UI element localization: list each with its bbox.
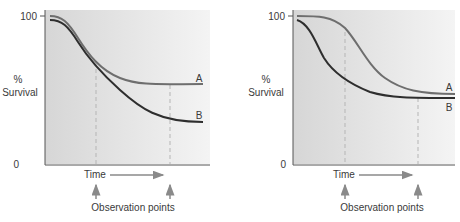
right-panel: 100 0 % Survival A B Time Observation po… [248,10,455,213]
left-y-tick-label-100: 100 [20,11,37,22]
left-plot-area [45,10,210,164]
figure: 100 0 % Survival A B Time Observation po… [0,0,460,222]
left-panel: 100 0 % Survival A B Time Observation po… [2,10,210,213]
right-series-label-b: B [446,102,453,113]
left-y-label-percent: % [14,74,23,85]
right-observation-points-label: Observation points [340,202,423,213]
left-series-label-a: A [196,73,203,84]
right-y-tick-label-0: 0 [280,159,286,170]
left-y-label-survival: Survival [2,87,38,98]
right-y-tick-label-100: 100 [268,11,285,22]
right-time-label: Time [333,169,355,180]
left-series-label-b: B [196,110,203,121]
left-time-label: Time [84,169,106,180]
right-y-label-survival: Survival [248,87,284,98]
right-series-label-a: A [446,82,453,93]
left-observation-points-label: Observation points [91,202,174,213]
left-y-tick-label-0: 0 [13,159,19,170]
right-plot-area [293,10,455,164]
right-y-label-percent: % [262,74,271,85]
